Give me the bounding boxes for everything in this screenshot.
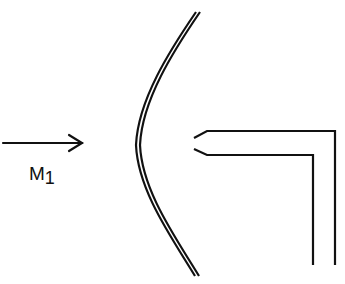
flow-arrow-icon <box>3 135 82 151</box>
mach-subscript: 1 <box>45 168 55 188</box>
diagram-svg <box>0 0 345 284</box>
pitot-probe <box>194 131 335 265</box>
mach-symbol: M <box>29 163 45 184</box>
bow-shock-curve <box>136 12 200 276</box>
mach-number-label: M1 <box>29 163 55 185</box>
